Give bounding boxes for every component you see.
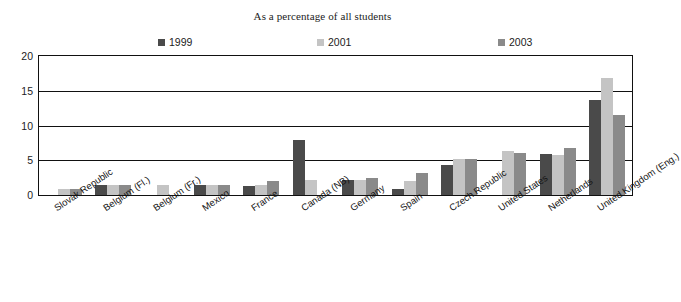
bar-group	[243, 56, 279, 195]
y-axis-tick-labels: 05101520	[0, 55, 33, 196]
bar	[243, 186, 255, 195]
chart-legend: 1999 2001 2003	[0, 36, 645, 52]
y-tick-10: 10	[0, 120, 33, 132]
legend-entry-2001: 2001	[317, 36, 351, 48]
legend-swatch-2001	[317, 39, 324, 46]
legend-label-2003: 2003	[509, 36, 532, 48]
bar-group	[293, 56, 329, 195]
legend-entry-1999: 1999	[158, 36, 192, 48]
bar	[441, 165, 453, 195]
bar	[601, 78, 613, 195]
legend-swatch-1999	[158, 39, 165, 46]
y-tick-5: 5	[0, 154, 33, 166]
bar-group	[589, 56, 625, 195]
bar-group	[145, 56, 181, 195]
bar	[293, 140, 305, 195]
y-tick-20: 20	[0, 50, 33, 62]
bar-group	[392, 56, 428, 195]
y-tick-15: 15	[0, 85, 33, 97]
bar-group	[342, 56, 378, 195]
bar	[613, 115, 625, 195]
x-axis-tick-labels: Slovak RepublicBelgium (Fl.)Belgium (Fr.…	[0, 196, 645, 302]
bar	[453, 159, 465, 195]
bar-group	[46, 56, 82, 195]
bar	[392, 189, 404, 195]
legend-entry-2003: 2003	[498, 36, 532, 48]
bar	[552, 155, 564, 195]
legend-swatch-2003	[498, 39, 505, 46]
bar-group	[194, 56, 230, 195]
bar-group	[441, 56, 477, 195]
legend-label-2001: 2001	[328, 36, 351, 48]
legend-label-1999: 1999	[169, 36, 192, 48]
chart-title: As a percentage of all students	[0, 10, 645, 22]
